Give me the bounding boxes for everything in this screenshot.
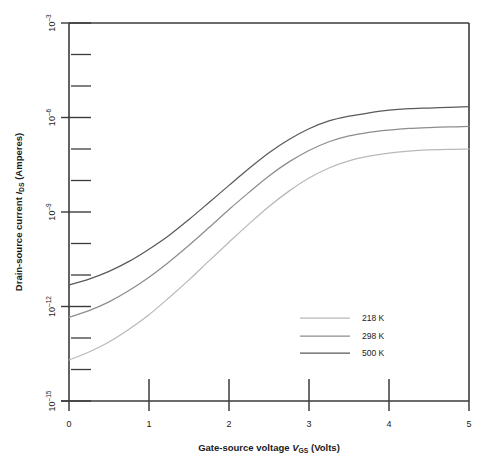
x-tick-label: 5 bbox=[466, 419, 471, 429]
y-tick-label-group: 10–9 bbox=[45, 203, 57, 221]
figure-panel: 10–310–610–910–1210–15012345218 K298 K50… bbox=[0, 0, 488, 468]
y-tick-label: 10–6 bbox=[45, 108, 57, 126]
legend-label-500-K: 500 K bbox=[362, 348, 385, 358]
legend-label-218-K: 218 K bbox=[362, 313, 385, 323]
y-tick-label: 10–3 bbox=[45, 14, 57, 32]
series-line-500-K bbox=[69, 107, 469, 285]
legend-label-298-K: 298 K bbox=[362, 331, 385, 341]
y-tick-label: 10–15 bbox=[45, 390, 57, 411]
x-tick-label: 2 bbox=[226, 419, 231, 429]
y-tick-label-group: 10–6 bbox=[45, 108, 57, 126]
y-tick-label: 10–12 bbox=[45, 296, 57, 317]
series-line-218-K bbox=[69, 149, 469, 360]
y-tick-label: 10–9 bbox=[45, 203, 57, 221]
x-tick-label: 1 bbox=[146, 419, 151, 429]
y-tick-label-group: 10–12 bbox=[45, 296, 57, 317]
semilog-chart: 10–310–610–910–1210–15012345218 K298 K50… bbox=[0, 0, 488, 468]
y-tick-label-group: 10–3 bbox=[45, 14, 57, 32]
y-tick-label-group: 10–15 bbox=[45, 390, 57, 411]
series-line-298-K bbox=[69, 126, 469, 317]
x-tick-label: 0 bbox=[66, 419, 71, 429]
x-tick-label: 4 bbox=[386, 419, 391, 429]
y-axis-title: Drain-source current IDS (Amperes) bbox=[13, 133, 25, 291]
x-tick-label: 3 bbox=[306, 419, 311, 429]
x-axis-title: Gate-source voltage VGS (Volts) bbox=[198, 442, 340, 454]
